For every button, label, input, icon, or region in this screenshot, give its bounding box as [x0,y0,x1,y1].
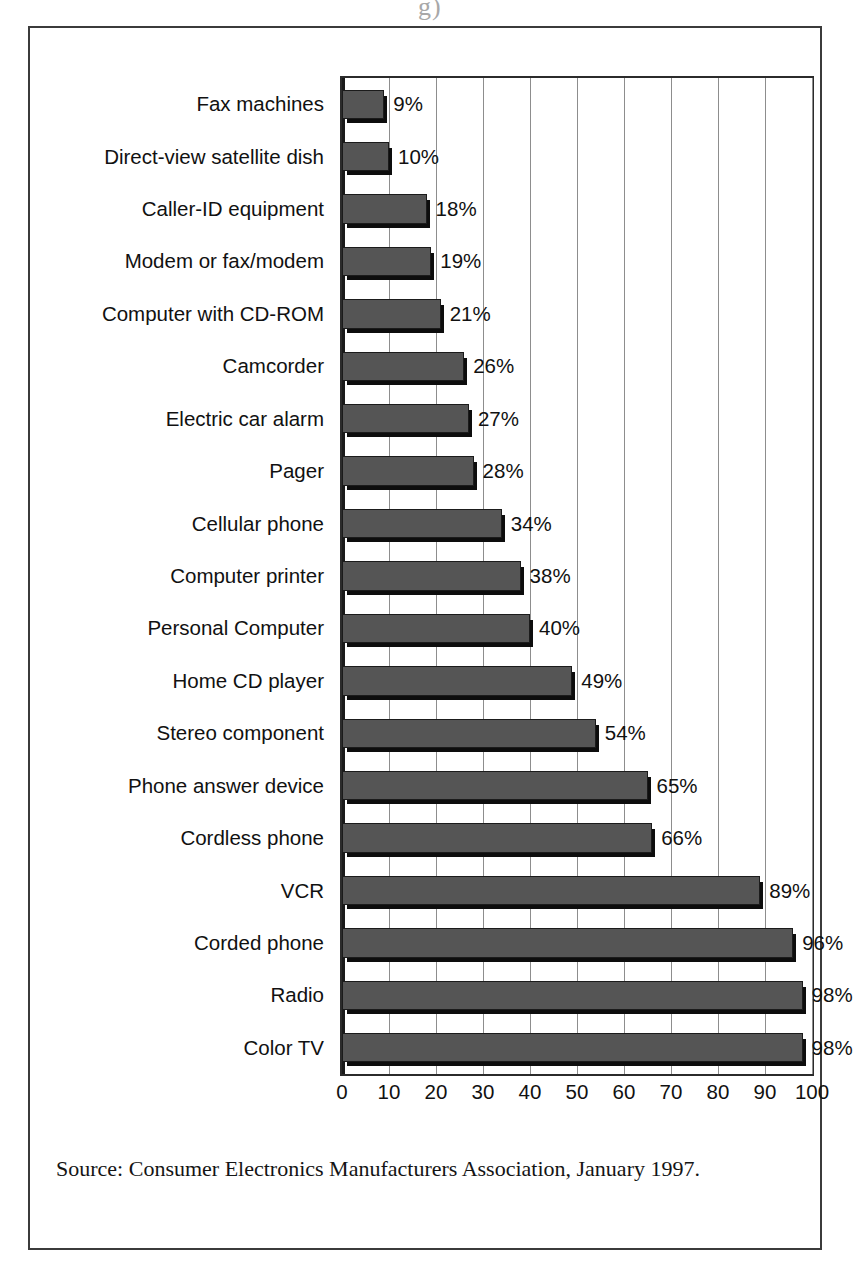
bar-row: 26% [342,352,812,381]
bar-row: 96% [342,928,812,957]
x-tick-label: 30 [472,1080,495,1104]
bar-row: 40% [342,614,812,643]
gridline-100 [812,78,813,1074]
bar-value-label: 19% [431,249,481,273]
figure-frame: Fax machinesDirect-view satellite dishCa… [28,26,822,1250]
source-note: Source: Consumer Electronics Manufacture… [56,1154,798,1184]
x-tick-label: 70 [660,1080,683,1104]
bar-row: 38% [342,561,812,590]
bar [342,352,464,381]
bar [342,142,389,171]
bar-value-label: 9% [384,92,423,116]
bar-row: 18% [342,194,812,223]
x-axis-tick-labels: 0102030405060708090100 [340,1080,814,1112]
bar-row: 9% [342,90,812,119]
bar-row: 49% [342,666,812,695]
bar-value-label: 21% [441,302,491,326]
bar-row: 27% [342,404,812,433]
plot-area: 9%10%18%19%21%26%27%28%34%38%40%49%54%65… [340,76,814,1076]
bar-value-label: 65% [648,774,698,798]
bar-value-label: 26% [464,354,514,378]
bar [342,1033,803,1062]
bar-row: 21% [342,299,812,328]
bar-row: 54% [342,719,812,748]
bar [342,404,469,433]
x-tick-label: 80 [707,1080,730,1104]
scan-artifact-glyph: g) [418,0,442,22]
bar-row: 98% [342,981,812,1010]
bar [342,928,793,957]
category-axis-labels: Fax machinesDirect-view satellite dishCa… [30,76,332,1076]
bar-value-label: 66% [652,826,702,850]
bar-row: 65% [342,771,812,800]
bar [342,981,803,1010]
x-tick-label: 50 [566,1080,589,1104]
bar-value-label: 98% [803,983,853,1007]
bar-chart: Fax machinesDirect-view satellite dishCa… [30,28,824,1140]
x-tick-label: 0 [336,1080,347,1104]
bar-row: 34% [342,509,812,538]
bar [342,614,530,643]
bar [342,876,760,905]
x-tick-label: 10 [378,1080,401,1104]
x-tick-label: 20 [425,1080,448,1104]
bar-value-label: 34% [502,512,552,536]
bar-value-label: 28% [474,459,524,483]
x-tick-label: 90 [754,1080,777,1104]
bar-value-label: 38% [521,564,571,588]
x-tick-label: 40 [519,1080,542,1104]
bar-value-label: 27% [469,407,519,431]
bar-value-label: 18% [427,197,477,221]
bar [342,771,648,800]
bar-row: 89% [342,876,812,905]
bar [342,719,596,748]
bar [342,509,502,538]
x-tick-label: 100 [795,1080,829,1104]
bar [342,247,431,276]
bar-row: 98% [342,1033,812,1062]
bar [342,456,474,485]
bar [342,90,384,119]
x-tick-label: 60 [613,1080,636,1104]
bar-row: 28% [342,456,812,485]
bar-value-label: 40% [530,616,580,640]
bar [342,194,427,223]
bar-value-label: 89% [760,879,810,903]
bar [342,299,441,328]
bar-row: 66% [342,823,812,852]
bar-row: 10% [342,142,812,171]
bar-value-label: 98% [803,1036,853,1060]
bar-value-label: 96% [793,931,843,955]
bar [342,666,572,695]
bar-value-label: 10% [389,145,439,169]
bar-row: 19% [342,247,812,276]
bar-value-label: 49% [572,669,622,693]
bar [342,561,521,590]
bar [342,823,652,852]
bars-layer: 9%10%18%19%21%26%27%28%34%38%40%49%54%65… [342,78,812,1074]
bar-value-label: 54% [596,721,646,745]
